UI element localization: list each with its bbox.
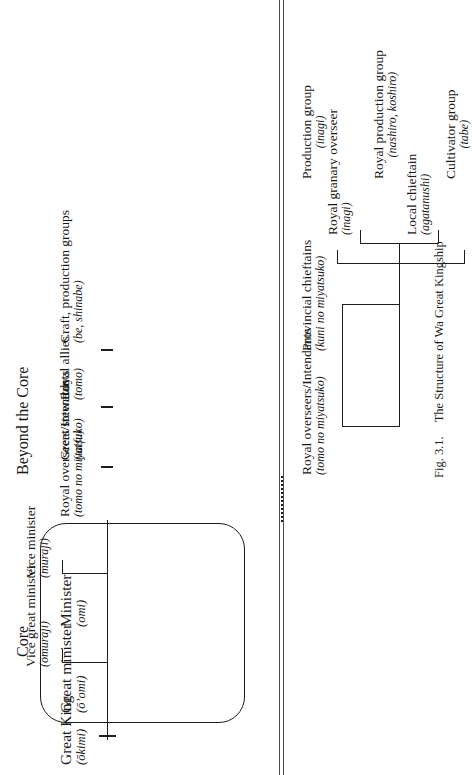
core-tick-royal-allies xyxy=(101,406,113,408)
royal-production-group-romaji: (nashiro, koshiro) xyxy=(386,50,399,179)
bracket-great-minister-riser xyxy=(62,662,108,663)
caption-number: Fig. 3.1. xyxy=(432,436,446,478)
arm-to-royal-production-group xyxy=(399,250,400,264)
core-craft-groups-romaji: (be, shinabe) xyxy=(72,210,85,343)
royal-granary-overseer-romaji: (inagi) xyxy=(340,109,353,235)
label-production-group: Production group (inagi) xyxy=(299,85,328,179)
core-craft-groups-title: Craft, production groups xyxy=(57,210,72,343)
bracket-minister-riser xyxy=(62,573,108,574)
provincial-chieftains-title: Provincial chieftains xyxy=(299,240,314,351)
provincial-chieftains-romaji: (kuni no miyatsuko) xyxy=(314,240,327,351)
label-local-chieftain: Local chieftain (agatanushi) xyxy=(404,154,433,235)
arm-to-cultivator-group xyxy=(337,250,338,264)
bracket-vice-great-minister-arm xyxy=(62,649,63,663)
vice-minister-romaji: (muraji) xyxy=(38,506,51,578)
core-boundary-divider xyxy=(279,0,284,775)
core-royal-allies-romaji: (tomo) xyxy=(72,336,85,400)
label-great-minister: Great minister (ō’omi) xyxy=(57,624,88,713)
label-provincial-chieftains: Provincial chieftains (kuni no miyatsuko… xyxy=(299,240,328,351)
vice-minister-title: Vice minister xyxy=(23,506,38,578)
figure-caption: Fig. 3.1. The Structure of Wa Great King… xyxy=(432,241,447,478)
core-spine-line xyxy=(107,520,108,740)
production-group-title: Production group xyxy=(299,85,314,179)
vice-great-minister-romaji: (ōmuraji) xyxy=(38,564,51,667)
arm-to-royal-granary-overseer xyxy=(360,230,361,244)
label-vice-minister: Vice minister (muraji) xyxy=(23,506,52,578)
local-chieftain-title: Local chieftain xyxy=(404,154,419,235)
great-minister-title: Great minister xyxy=(57,624,74,713)
minister-title: Minister xyxy=(57,574,74,627)
core-royal-allies-title: Royal allies xyxy=(57,336,72,400)
overseers-trunk-line xyxy=(342,426,400,427)
label-core-royal-allies: Royal allies (tomo) xyxy=(57,336,86,400)
bracket-great-minister-stem xyxy=(107,662,108,678)
overseers-to-production-link xyxy=(399,263,400,427)
local-chieftain-romaji: (agatanushi) xyxy=(419,154,432,235)
label-minister: Minister (omi) xyxy=(57,574,88,627)
section-heading-beyond-the-core: Beyond the Core xyxy=(14,367,32,475)
label-vice-great-minister: Vice great minister (ōmuraji) xyxy=(23,564,52,667)
label-royal-production-group: Royal production group (nashiro, koshiro… xyxy=(371,50,400,179)
cultivator-group-title: Cultivator group xyxy=(443,89,458,179)
provincial-children-riser xyxy=(360,243,439,244)
royal-production-group-title: Royal production group xyxy=(371,50,386,179)
label-cultivator-group: Cultivator group (tabe) xyxy=(443,89,472,179)
great-minister-romaji: (ō’omi) xyxy=(74,624,88,713)
divider-line-upper xyxy=(279,0,280,775)
dotted-connector-overseers xyxy=(281,476,283,522)
bracket-minister-stem xyxy=(107,573,108,589)
overseers-to-provincial-link xyxy=(342,304,343,427)
production-group-romaji: (inagi) xyxy=(314,85,327,179)
arm-to-production-group xyxy=(464,250,465,264)
cultivator-group-romaji: (tabe) xyxy=(458,89,471,179)
provincial-chieftains-riser xyxy=(342,304,400,305)
minister-romaji: (omi) xyxy=(74,574,88,627)
divider-line-lower xyxy=(283,0,284,775)
vice-great-minister-title: Vice great minister xyxy=(23,564,38,667)
bracket-vice-minister-arm xyxy=(62,560,63,574)
label-royal-granary-overseer: Royal granary overseer (inagi) xyxy=(325,109,354,235)
label-core-craft-production-groups: Craft, production groups (be, shinabe) xyxy=(57,210,86,343)
core-tick-great-stewards xyxy=(101,466,113,468)
great-king-tick xyxy=(99,735,116,737)
caption-title: The Structure of Wa Great Kingship xyxy=(432,241,446,422)
core-tick-craft-groups xyxy=(101,349,113,351)
